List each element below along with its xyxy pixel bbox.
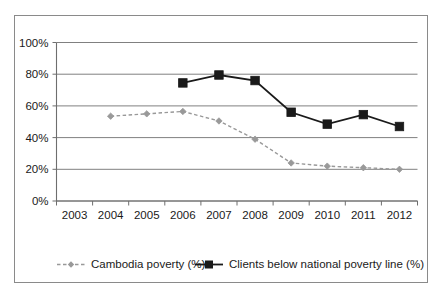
poverty-line-chart: 0%20%40%60%80%100% 200320042005200620072… bbox=[0, 0, 441, 299]
data-point-marker bbox=[144, 111, 150, 117]
y-axis-labels-group: 0%20%40%60%80%100% bbox=[19, 37, 48, 208]
y-axis-label: 40% bbox=[25, 132, 48, 144]
data-point-marker bbox=[215, 71, 224, 80]
x-axis-label: 2011 bbox=[351, 209, 376, 221]
data-point-marker bbox=[395, 122, 404, 131]
data-point-marker bbox=[287, 108, 296, 117]
y-axis-label: 100% bbox=[19, 37, 48, 49]
y-axis-label: 80% bbox=[25, 68, 48, 80]
data-point-marker bbox=[359, 110, 368, 119]
y-axis-label: 60% bbox=[25, 100, 48, 112]
y-axis-label: 20% bbox=[25, 163, 48, 175]
chart-legend: Cambodia poverty (%)Clients below nation… bbox=[57, 258, 424, 270]
data-series-group bbox=[107, 71, 403, 173]
x-axis-label: 2009 bbox=[278, 209, 304, 221]
x-axis-label: 2007 bbox=[206, 209, 232, 221]
axes-group bbox=[57, 43, 418, 202]
data-point-marker bbox=[396, 166, 402, 172]
data-point-marker bbox=[323, 120, 332, 129]
gridlines-group bbox=[57, 43, 418, 202]
x-axis-label: 2004 bbox=[98, 209, 124, 221]
x-axis-label: 2012 bbox=[387, 209, 413, 221]
legend-label: Clients below national poverty line (%) bbox=[229, 258, 424, 270]
data-point-marker bbox=[180, 108, 186, 114]
legend-label: Cambodia poverty (%) bbox=[91, 258, 206, 270]
series-clients-below-poverty-line bbox=[179, 71, 404, 131]
legend-item-cambodia-poverty[interactable]: Cambodia poverty (%) bbox=[57, 258, 206, 270]
legend-marker bbox=[205, 261, 213, 269]
legend-marker bbox=[68, 261, 74, 267]
x-axis-label: 2003 bbox=[62, 209, 88, 221]
data-point-marker bbox=[107, 113, 113, 119]
data-point-marker bbox=[216, 118, 222, 124]
data-point-marker bbox=[179, 79, 188, 88]
x-axis-label: 2006 bbox=[170, 209, 196, 221]
x-axis-label: 2005 bbox=[134, 209, 160, 221]
x-axis-label: 2008 bbox=[242, 209, 268, 221]
data-point-marker bbox=[251, 76, 259, 85]
legend-item-clients-below-poverty-line[interactable]: Clients below national poverty line (%) bbox=[195, 258, 424, 270]
data-point-marker bbox=[360, 165, 366, 171]
y-axis-label: 0% bbox=[32, 195, 49, 207]
x-axis-labels-group: 2003200420052006200720082009201020112012 bbox=[62, 209, 412, 221]
series-cambodia-poverty bbox=[107, 108, 402, 172]
x-tick-marks-group bbox=[57, 201, 418, 206]
x-axis-label: 2010 bbox=[314, 209, 340, 221]
data-point-marker bbox=[324, 163, 330, 169]
y-tick-marks-group bbox=[53, 43, 57, 202]
data-point-marker bbox=[288, 160, 294, 166]
